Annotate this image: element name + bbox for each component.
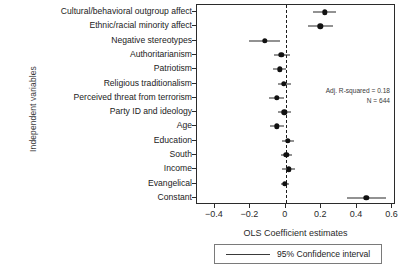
- coefficient-point-marker: [322, 9, 327, 14]
- y-axis-tick: [192, 54, 197, 55]
- sample-size-text: N = 644: [250, 96, 390, 106]
- y-axis-tick: [192, 68, 197, 69]
- y-axis-category-label: Evangelical: [8, 178, 192, 187]
- y-axis-tick: [192, 40, 197, 41]
- y-axis-category-label: Age: [8, 121, 192, 130]
- ci-line-icon: [226, 254, 270, 255]
- y-axis-category-label: Constant: [8, 192, 192, 201]
- coefficient-point-marker: [363, 195, 368, 200]
- y-axis-category-label: Authoritarianism: [8, 50, 192, 59]
- x-axis-tick: [391, 204, 392, 208]
- coefficient-plot-figure: Independent variables Cultural/behaviora…: [0, 0, 404, 271]
- x-axis-tick-label: −0.4: [205, 209, 223, 219]
- x-axis-tick: [356, 204, 357, 208]
- coefficient-point-marker: [283, 152, 288, 157]
- y-axis-tick: [192, 25, 197, 26]
- y-axis-category-label: Education: [8, 135, 192, 144]
- y-axis-tick: [192, 83, 197, 84]
- x-axis-tick: [249, 204, 250, 208]
- y-axis-category-label: Negative stereotypes: [8, 35, 192, 44]
- coefficient-point-marker: [279, 52, 284, 57]
- x-axis-tick-label: 0.4: [350, 209, 363, 219]
- y-axis-category-label: Income: [8, 164, 192, 173]
- coefficient-point-marker: [285, 138, 290, 143]
- y-axis-tick: [192, 197, 197, 198]
- x-axis-tick-label: 0: [282, 209, 287, 219]
- y-axis-tick: [192, 183, 197, 184]
- x-axis-tick: [320, 204, 321, 208]
- ci-legend-label: 95% Confidence interval: [277, 249, 370, 259]
- y-axis-tick: [192, 140, 197, 141]
- y-axis-tick: [192, 168, 197, 169]
- y-axis-category-label: Perceived threat from terrorism: [8, 92, 192, 101]
- y-axis-tick: [192, 111, 197, 112]
- x-axis-tick: [214, 204, 215, 208]
- x-axis-tick-label: 0.2: [314, 209, 327, 219]
- y-axis-category-label: Religious traditionalism: [8, 78, 192, 87]
- coefficient-point-marker: [318, 24, 323, 29]
- confidence-interval-legend-box: 95% Confidence interval: [214, 244, 382, 264]
- adj-r-squared-text: Adj. R-squared = 0.18: [250, 86, 390, 96]
- x-axis-tick: [285, 204, 286, 208]
- y-axis-tick: [192, 125, 197, 126]
- x-axis-tick-label: −0.2: [240, 209, 258, 219]
- y-axis-category-label: Cultural/behavioral outgroup affect: [8, 7, 192, 16]
- y-axis-tick: [192, 97, 197, 98]
- y-axis-category-label: Patriotism: [8, 64, 192, 73]
- y-axis-category-labels: Cultural/behavioral outgroup affectEthni…: [8, 0, 192, 204]
- y-axis-tick: [192, 154, 197, 155]
- coefficient-point-marker: [286, 167, 291, 172]
- coefficient-point-marker: [277, 67, 282, 72]
- y-axis-category-label: South: [8, 150, 192, 159]
- y-axis-tick: [192, 11, 197, 12]
- model-statistics-annotation: Adj. R-squared = 0.18 N = 644: [250, 86, 390, 105]
- coefficient-point-marker: [262, 38, 267, 43]
- coefficient-point-marker: [274, 124, 279, 129]
- x-axis-title: OLS Coefficient estimates: [196, 228, 395, 238]
- y-axis-category-label: Ethnic/racial minority affect: [8, 21, 192, 30]
- x-axis-tick-label: 0.6: [385, 209, 398, 219]
- y-axis-category-label: Party ID and ideology: [8, 107, 192, 116]
